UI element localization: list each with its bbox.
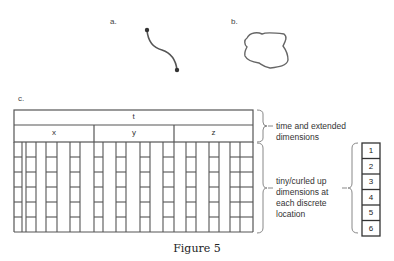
dimension-cell-1: 1 [362, 146, 380, 155]
brace-time-extended [257, 110, 273, 142]
annotation-time-extended: time and extended dimensions [276, 121, 366, 143]
annotation-line: time and extended [276, 121, 366, 132]
open-string-icon [145, 28, 179, 72]
annotation-line: dimensions at [276, 187, 346, 198]
annotation-line: dimensions [276, 132, 366, 143]
closed-loop-icon [245, 33, 288, 68]
dimension-column [362, 143, 380, 236]
dimension-cell-5: 5 [362, 208, 380, 217]
header-z: z [174, 128, 253, 137]
annotation-line: each discrete [276, 198, 346, 209]
brace-tiny-dimensions [257, 143, 273, 233]
dimension-cell-4: 4 [362, 193, 380, 202]
annotation-line: location [276, 209, 346, 220]
annotation-line: tiny/curled up [276, 176, 346, 187]
dimension-cell-6: 6 [362, 224, 380, 233]
grid-cells [14, 142, 253, 232]
figure-caption: Figure 5 [0, 242, 394, 255]
dimension-cell-2: 2 [362, 162, 380, 171]
annotation-tiny-curled: tiny/curled up dimensions at each discre… [276, 176, 346, 220]
header-y: y [94, 128, 174, 137]
header-x: x [14, 128, 94, 137]
dimension-cell-3: 3 [362, 177, 380, 186]
header-t: t [14, 112, 253, 121]
